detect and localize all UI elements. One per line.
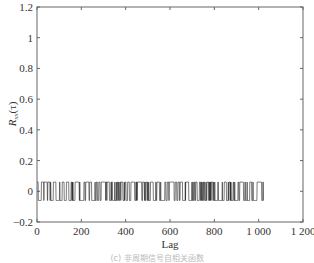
chart: 02004006008001 0001 200 −0.200.20.40.60.… (0, 0, 314, 263)
autocorrelation-series (37, 182, 264, 200)
y-tick-label: 1.2 (19, 1, 33, 13)
x-tick-label: 1 000 (246, 225, 271, 237)
figure-caption: (c) 非周期信号自相关函数 (0, 252, 314, 263)
y-tick-label: 0.4 (19, 124, 33, 136)
x-tick-label: 1 200 (291, 225, 314, 237)
x-tick-label: 400 (117, 225, 134, 237)
svg-text:Rxx(τ): Rxx(τ) (6, 101, 20, 127)
y-tick-label: −0.2 (13, 216, 33, 228)
x-tick-label: 600 (162, 225, 179, 237)
y-tick-label: 0.2 (19, 155, 33, 167)
x-tick-label: 800 (206, 225, 223, 237)
y-tick-label: 0.8 (19, 62, 33, 74)
x-tick-label: 0 (34, 225, 40, 237)
y-tick-label: 0 (28, 185, 34, 197)
x-axis-label: Lag (161, 238, 179, 250)
x-axis-ticks: 02004006008001 0001 200 (34, 7, 314, 237)
y-axis-ticks: −0.200.20.40.60.811.2 (13, 1, 303, 228)
y-tick-label: 1 (28, 32, 34, 44)
y-tick-label: 0.6 (19, 93, 33, 105)
x-tick-label: 200 (73, 225, 90, 237)
y-axis-label: Rxx(τ) (6, 101, 20, 127)
plot-frame (37, 7, 303, 222)
